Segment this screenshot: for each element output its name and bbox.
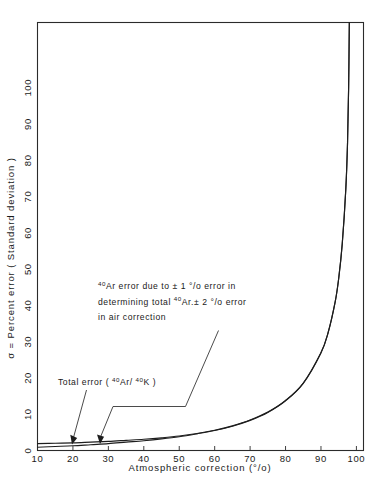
y-tick-label-50: 50 bbox=[22, 263, 33, 275]
chart-background bbox=[0, 0, 380, 482]
y-tick-label-40: 40 bbox=[22, 300, 33, 312]
y-tick-label-80: 80 bbox=[22, 154, 33, 166]
y-tick-label-20: 20 bbox=[22, 372, 33, 384]
y-tick-label-100: 100 bbox=[22, 79, 33, 97]
ar-error-note-line-0: 40Ar error due to ± 1 °/o error in bbox=[98, 280, 236, 291]
x-tick-label-20: 20 bbox=[67, 453, 79, 464]
y-tick-label-0: 0 bbox=[22, 448, 33, 454]
ar-error-note-line-2: in air correction bbox=[98, 312, 166, 322]
y-tick-label-60: 60 bbox=[22, 227, 33, 239]
figure-container: 102030405060708090100 010203040506070809… bbox=[0, 0, 380, 482]
y-axis-title: σ = Percent error ( Standard deviation ) bbox=[5, 157, 16, 359]
x-tick-label-90: 90 bbox=[315, 453, 327, 464]
y-tick-label-70: 70 bbox=[22, 191, 33, 203]
y-tick-label-10: 10 bbox=[22, 408, 33, 420]
y-tick-label-90: 90 bbox=[22, 118, 33, 130]
atmospheric-correction-error-chart: 102030405060708090100 010203040506070809… bbox=[0, 0, 380, 482]
x-tick-label-100: 100 bbox=[348, 453, 366, 464]
ar-error-note-line-1: determining total 40Ar.± 2 °/o error bbox=[98, 295, 247, 306]
x-tick-label-30: 30 bbox=[102, 453, 114, 464]
x-tick-label-10: 10 bbox=[32, 453, 44, 464]
x-tick-label-80: 80 bbox=[280, 453, 292, 464]
y-tick-label-30: 30 bbox=[22, 336, 33, 348]
x-axis-title: Atmospheric correction (°/o) bbox=[128, 462, 271, 473]
